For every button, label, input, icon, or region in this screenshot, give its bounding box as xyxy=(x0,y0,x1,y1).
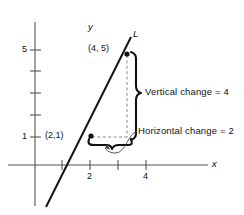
y-tick-label-5: 5 xyxy=(22,45,27,54)
x-tick-label-2: 2 xyxy=(87,172,92,181)
x-tick-label-4: 4 xyxy=(143,172,148,181)
slope-diagram: y x L 5 1 2 4 (4, 5) (2,1) Vertical chan… xyxy=(0,0,244,215)
point-label-2-1: (2,1) xyxy=(45,131,64,140)
horizontal-brace xyxy=(88,139,131,149)
line-L-label: L xyxy=(133,29,138,39)
y-tick-label-1: 1 xyxy=(22,132,27,141)
horizontal-change-label: Horizontal change = 2 xyxy=(138,126,234,136)
x-axis-label: x xyxy=(212,159,217,169)
figure-canvas xyxy=(0,0,244,215)
vertical-change-label: Vertical change = 4 xyxy=(145,87,229,97)
point-label-4-5: (4, 5) xyxy=(88,44,109,53)
line-L xyxy=(46,37,131,207)
y-axis-label: y xyxy=(88,22,93,32)
point-2-1 xyxy=(88,133,93,138)
point-4-5 xyxy=(124,51,129,56)
